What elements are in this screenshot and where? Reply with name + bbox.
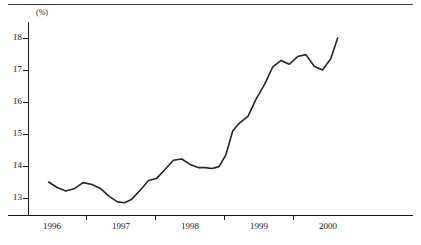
x-axis-tick-label: 1997 xyxy=(101,221,141,231)
y-axis-tick-label: 17 xyxy=(2,64,22,74)
y-axis-tick-label: 14 xyxy=(2,160,22,170)
chart-figure: (%) 131415161718 19961997199819992000 xyxy=(0,0,421,245)
x-axis-tick-label: 2000 xyxy=(308,221,348,231)
x-axis-tick-label: 1996 xyxy=(32,221,72,231)
x-axis-tick-label: 1999 xyxy=(239,221,279,231)
data-line-rate xyxy=(49,38,338,203)
y-axis-tick-label: 16 xyxy=(2,96,22,106)
y-axis-tick-label: 18 xyxy=(2,32,22,42)
chart-plot-area xyxy=(0,0,421,245)
y-axis-tick-label: 13 xyxy=(2,192,22,202)
y-axis-tick-label: 15 xyxy=(2,128,22,138)
x-axis-tick-label: 1998 xyxy=(170,221,210,231)
